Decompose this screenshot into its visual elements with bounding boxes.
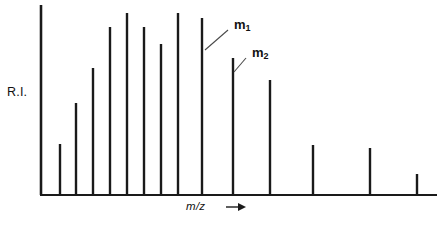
peak-label-m1-base: m [234,17,246,32]
axes-group [40,5,437,195]
leader-line-m1 [205,30,228,50]
peak-label-m2-subscript: 2 [264,51,269,61]
leader-line-m2 [234,58,246,72]
spectrum-plot [0,0,446,225]
y-axis-label: R.I. [7,86,27,99]
peak-label-m2-base: m [252,45,264,60]
peak-label-m2: m2 [252,46,269,59]
peak-label-m1: m1 [234,18,251,31]
x-axis-label: m/z [186,201,205,213]
right-arrow-icon [225,200,247,214]
annotation-leader-lines [205,30,246,72]
peak-series [41,5,417,195]
peak-label-m1-subscript: 1 [246,23,251,33]
mass-spectrum-figure: R.I. m/z m1 m2 [0,0,446,225]
